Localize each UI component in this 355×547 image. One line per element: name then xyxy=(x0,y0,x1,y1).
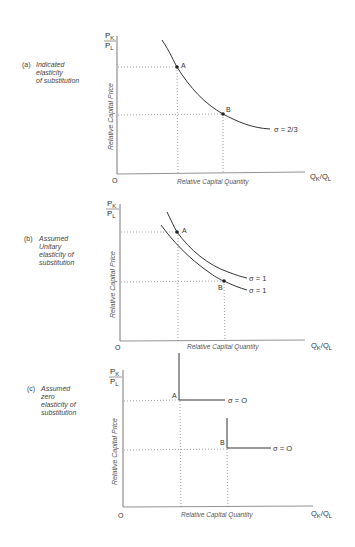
origin-label: O xyxy=(118,512,124,519)
guide-b-h xyxy=(118,114,223,115)
x-ratio-label: QK/QL xyxy=(310,172,332,182)
sigma-label-lower: σ = 1 xyxy=(249,286,266,295)
y-ratio-den: PL xyxy=(110,377,119,387)
x-axis xyxy=(123,506,313,507)
origin-label: O xyxy=(115,344,121,351)
x-ratio-label: QK/QL xyxy=(311,341,333,351)
point-a-label: A xyxy=(182,227,187,234)
x-axis-label: Relative Capital Quantity xyxy=(181,511,253,519)
y-axis-label: Relative Capital Price xyxy=(107,83,115,150)
y-ratio-den: PL xyxy=(107,209,116,219)
guide-a-v xyxy=(180,401,181,507)
panel-b: PK PL Relative Capital Price O A B σ = 1… xyxy=(106,199,333,351)
origin-label: O xyxy=(112,177,118,184)
y-ratio-num: PK xyxy=(110,367,119,377)
panel-c: PK PL Relative Capital Price O A B σ = O… xyxy=(109,353,333,519)
y-ratio-num: PK xyxy=(105,31,114,41)
y-axis-label: Relative Capital Price xyxy=(109,251,117,318)
x-axis xyxy=(117,172,305,174)
sigma-label-a: σ = O xyxy=(228,396,247,405)
point-a-marker xyxy=(175,65,179,69)
isoquant-curve xyxy=(162,40,270,129)
point-a-label: A xyxy=(181,62,186,69)
point-b-label: B xyxy=(218,284,223,291)
point-a-marker xyxy=(175,230,179,234)
isoquant-l-b xyxy=(227,418,271,448)
x-ratio-label: QK/QL xyxy=(311,509,333,519)
x-axis-label: Relative Capital Quantity xyxy=(177,178,249,186)
sigma-label-upper: σ = 1 xyxy=(249,274,266,283)
point-b-marker xyxy=(222,279,226,283)
sigma-label: σ = 2/3 xyxy=(274,125,298,134)
sigma-label-b: σ = O xyxy=(273,444,292,453)
guide-a-h xyxy=(124,400,179,401)
guide-b-h xyxy=(124,449,227,450)
panel-a: PK PL Relative Capital Price O A B σ = 2… xyxy=(104,31,332,186)
guide-a-v xyxy=(177,67,178,174)
point-a-label: A xyxy=(172,392,177,399)
isoquant-curve-lower xyxy=(161,225,247,290)
point-b-label: B xyxy=(220,439,225,446)
guide-b-v xyxy=(227,449,228,507)
y-ratio-num: PK xyxy=(107,199,116,209)
point-b-marker xyxy=(221,112,225,116)
y-axis-label: Relative Capital Price xyxy=(111,418,119,485)
x-axis-label: Relative Capital Quantity xyxy=(187,343,259,351)
guide-b-h xyxy=(121,281,224,282)
x-axis xyxy=(120,340,305,341)
isoquant-curve-upper xyxy=(167,212,247,278)
point-b-label: B xyxy=(226,106,231,113)
y-ratio-den: PL xyxy=(105,41,114,51)
guide-b-v xyxy=(224,281,225,341)
isoquant-l-a xyxy=(179,353,225,400)
